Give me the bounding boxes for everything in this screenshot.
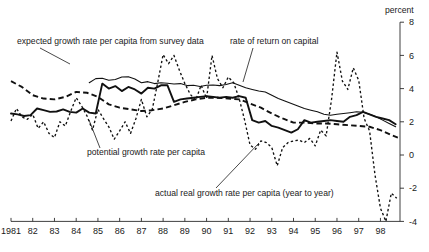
chart-figure: 19818283848586878889909192939495969798 8… — [0, 0, 429, 252]
y-tick-label: 6 — [409, 51, 414, 61]
annotation-label-rate-of-return: rate of return on capital — [230, 36, 318, 46]
x-tick-label: 82 — [28, 226, 38, 236]
tick-label-layer: 19818283848586878889909192939495969798 8… — [1, 17, 417, 236]
x-tick-label: 89 — [180, 226, 190, 236]
y-tick-label: 2 — [409, 117, 414, 127]
y-tick-label: -4 — [409, 217, 417, 227]
series-line-2 — [11, 81, 398, 137]
x-tick-label: 95 — [310, 226, 320, 236]
x-tick-label: 93 — [267, 226, 277, 236]
y-axis-ticks — [400, 22, 404, 221]
line-chart-svg: 19818283848586878889909192939495969798 8… — [0, 0, 429, 252]
y-tick-label: 8 — [409, 17, 414, 27]
annotation-leader-expected-growth — [40, 48, 70, 64]
x-tick-label: 91 — [223, 226, 233, 236]
x-tick-label: 90 — [202, 226, 212, 236]
annotation-label-expected-growth: expected growth rate per capita from sur… — [17, 36, 204, 46]
y-axis-unit-label: percent — [385, 5, 414, 15]
x-tick-label: 98 — [375, 226, 385, 236]
x-tick-label: 84 — [71, 226, 81, 236]
y-tick-label: -2 — [409, 183, 417, 193]
x-tick-label: 92 — [245, 226, 255, 236]
y-tick-labels: 86420-2-4 — [409, 17, 417, 226]
annotation-leader-potential-growth — [89, 120, 100, 148]
annotation-label-actual-real-growth: actual real growth rate per capita (year… — [155, 188, 334, 198]
x-tick-label: 85 — [93, 226, 103, 236]
annotation-leader-rate-of-return — [243, 48, 253, 82]
annotation-label-potential-growth: potential growth rate per capita — [87, 147, 205, 157]
x-tick-label: 88 — [158, 226, 168, 236]
x-tick-label: 87 — [136, 226, 146, 236]
x-tick-label: 83 — [49, 226, 59, 236]
x-tick-label: 1981 — [1, 226, 21, 236]
x-tick-label: 94 — [289, 226, 299, 236]
x-tick-label: 97 — [354, 226, 364, 236]
x-tick-label: 86 — [115, 226, 125, 236]
x-tick-labels: 19818283848586878889909192939495969798 — [1, 226, 385, 236]
y-tick-label: 0 — [409, 150, 414, 160]
annotation-leader-actual-real-growth — [216, 143, 259, 188]
x-axis-ticks — [11, 218, 380, 222]
x-tick-label: 96 — [332, 226, 342, 236]
y-tick-label: 4 — [409, 84, 414, 94]
